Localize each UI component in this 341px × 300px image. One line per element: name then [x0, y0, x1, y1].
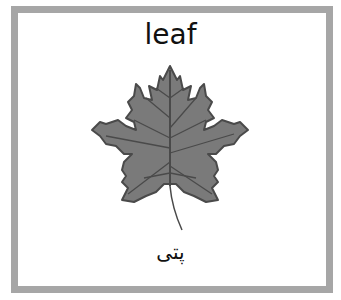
english-word: leaf: [0, 18, 341, 51]
maple-leaf-icon: [84, 58, 256, 238]
urdu-word: پتی: [0, 240, 341, 264]
